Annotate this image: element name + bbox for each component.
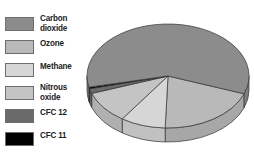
pie-chart <box>0 0 254 152</box>
